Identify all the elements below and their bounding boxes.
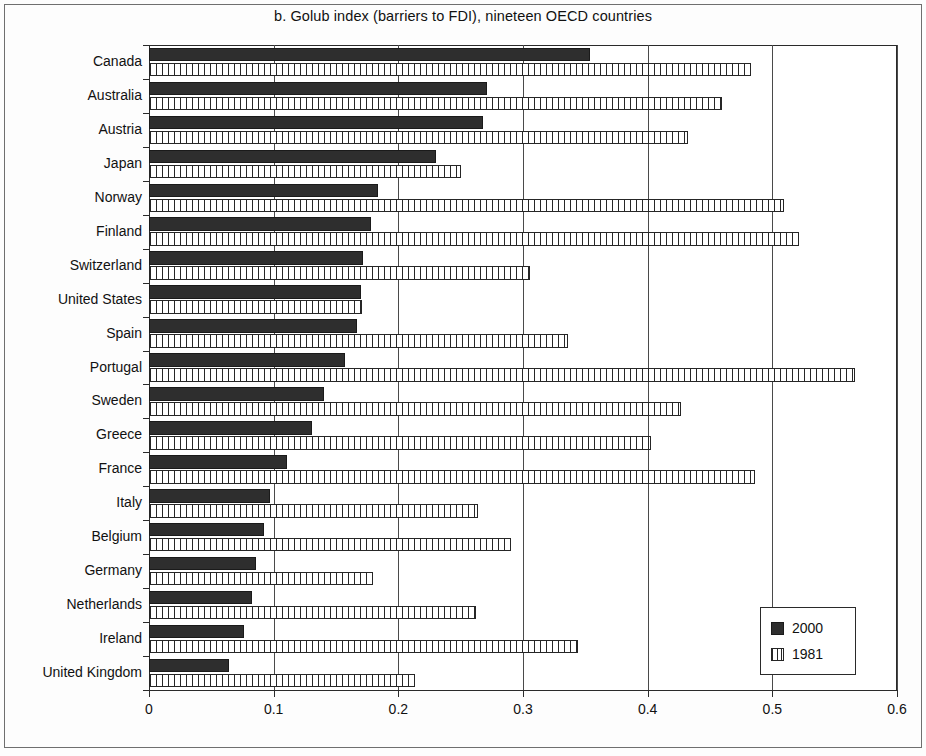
legend-swatch-1981-icon <box>771 648 784 661</box>
gridline <box>897 45 898 690</box>
legend-swatch-2000-icon <box>771 622 784 635</box>
y-axis-tick <box>143 147 149 148</box>
bar-1981 <box>149 232 799 246</box>
bar-2000 <box>149 625 244 639</box>
bar-2000 <box>149 82 487 96</box>
y-axis-tick <box>143 622 149 623</box>
category-label: Switzerland <box>0 257 142 273</box>
bar-1981 <box>149 640 578 654</box>
y-axis-tick <box>143 418 149 419</box>
chart-page: b. Golub index (barriers to FDI), ninete… <box>0 0 926 756</box>
y-axis-tick <box>143 351 149 352</box>
bar-1981 <box>149 199 784 213</box>
category-label: United Kingdom <box>0 664 142 680</box>
x-axis-label: 0.5 <box>742 701 802 717</box>
y-axis-tick <box>143 181 149 182</box>
category-label: France <box>0 460 142 476</box>
x-axis-tick <box>274 690 275 697</box>
category-label: Canada <box>0 53 142 69</box>
y-axis-tick <box>143 249 149 250</box>
bar-2000 <box>149 421 312 435</box>
bar-2000 <box>149 150 436 164</box>
bar-1981 <box>149 436 651 450</box>
x-axis-label: 0.4 <box>618 701 678 717</box>
y-axis-tick <box>143 554 149 555</box>
chart-legend: 2000 1981 <box>760 607 856 675</box>
bar-1981 <box>149 572 373 586</box>
bar-1981 <box>149 300 362 314</box>
y-axis-tick <box>143 317 149 318</box>
bar-2000 <box>149 591 252 605</box>
bar-2000 <box>149 659 229 673</box>
x-axis-label: 0 <box>119 701 179 717</box>
category-label: Sweden <box>0 392 142 408</box>
y-axis-tick <box>143 215 149 216</box>
y-axis-tick <box>143 283 149 284</box>
bar-1981 <box>149 97 722 111</box>
bar-2000 <box>149 489 270 503</box>
bar-2000 <box>149 455 287 469</box>
category-label: Ireland <box>0 630 142 646</box>
x-axis-label: 0.1 <box>244 701 304 717</box>
category-label: Spain <box>0 325 142 341</box>
bar-1981 <box>149 470 755 484</box>
x-axis-tick <box>772 690 773 697</box>
y-axis-tick <box>143 45 149 46</box>
legend-label-1981: 1981 <box>792 646 823 662</box>
x-axis-tick <box>149 690 150 697</box>
bar-1981 <box>149 674 415 688</box>
bar-1981 <box>149 504 478 518</box>
x-axis-tick <box>648 690 649 697</box>
bar-1981 <box>149 63 751 77</box>
category-label: Japan <box>0 155 142 171</box>
category-label: Greece <box>0 426 142 442</box>
bar-2000 <box>149 251 363 265</box>
y-axis-tick <box>143 79 149 80</box>
category-label: Italy <box>0 494 142 510</box>
x-axis-tick <box>897 690 898 697</box>
legend-item-1981: 1981 <box>771 641 855 667</box>
bar-2000 <box>149 319 357 333</box>
x-axis-label: 0.6 <box>867 701 926 717</box>
bar-2000 <box>149 353 345 367</box>
bar-2000 <box>149 557 256 571</box>
x-axis-label: 0.3 <box>493 701 553 717</box>
y-axis-tick <box>143 452 149 453</box>
category-label: Finland <box>0 223 142 239</box>
y-axis-tick <box>143 656 149 657</box>
category-label: Netherlands <box>0 596 142 612</box>
category-label: Portugal <box>0 359 142 375</box>
y-axis-tick <box>143 113 149 114</box>
bar-1981 <box>149 131 688 145</box>
category-label: Austria <box>0 121 142 137</box>
bar-2000 <box>149 285 361 299</box>
x-axis-tick <box>398 690 399 697</box>
category-label: Germany <box>0 562 142 578</box>
bar-1981 <box>149 538 511 552</box>
bar-2000 <box>149 184 378 198</box>
category-label: Belgium <box>0 528 142 544</box>
legend-label-2000: 2000 <box>792 620 823 636</box>
bar-1981 <box>149 402 681 416</box>
category-label: Norway <box>0 189 142 205</box>
bar-1981 <box>149 368 855 382</box>
x-axis-label: 0.2 <box>368 701 428 717</box>
category-label: United States <box>0 291 142 307</box>
y-axis-tick <box>143 486 149 487</box>
bar-2000 <box>149 48 590 62</box>
y-axis-tick <box>143 384 149 385</box>
y-axis-tick <box>143 520 149 521</box>
bar-1981 <box>149 165 461 179</box>
bar-1981 <box>149 606 476 620</box>
bar-2000 <box>149 387 324 401</box>
legend-item-2000: 2000 <box>771 615 855 641</box>
y-axis-tick <box>143 588 149 589</box>
bar-1981 <box>149 334 568 348</box>
bar-2000 <box>149 217 371 231</box>
x-axis-tick <box>523 690 524 697</box>
bar-1981 <box>149 266 530 280</box>
category-label: Australia <box>0 87 142 103</box>
bar-2000 <box>149 523 264 537</box>
chart-title: b. Golub index (barriers to FDI), ninete… <box>0 8 926 24</box>
bar-2000 <box>149 116 483 130</box>
